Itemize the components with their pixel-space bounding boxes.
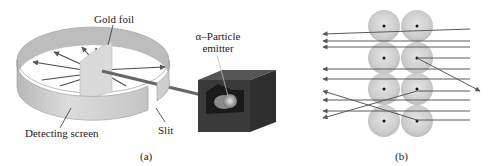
panel-b-atoms (323, 10, 480, 137)
panel-b-caption: (b) (395, 150, 408, 162)
alpha-emitter-label-line1: α–Particle (192, 30, 244, 42)
detecting-screen-label: Detecting screen (25, 127, 99, 139)
alpha-beam (102, 71, 210, 97)
alpha-emitter-box (198, 55, 276, 132)
alpha-paths (323, 29, 480, 120)
panel-a-caption: (a) (140, 150, 152, 162)
gold-atoms (368, 10, 433, 137)
slit-label: Slit (158, 124, 173, 136)
gold-foil-label: Gold foil (94, 13, 134, 25)
alpha-emitter-label-line2: emitter (192, 42, 244, 54)
rutherford-figure (0, 0, 493, 166)
